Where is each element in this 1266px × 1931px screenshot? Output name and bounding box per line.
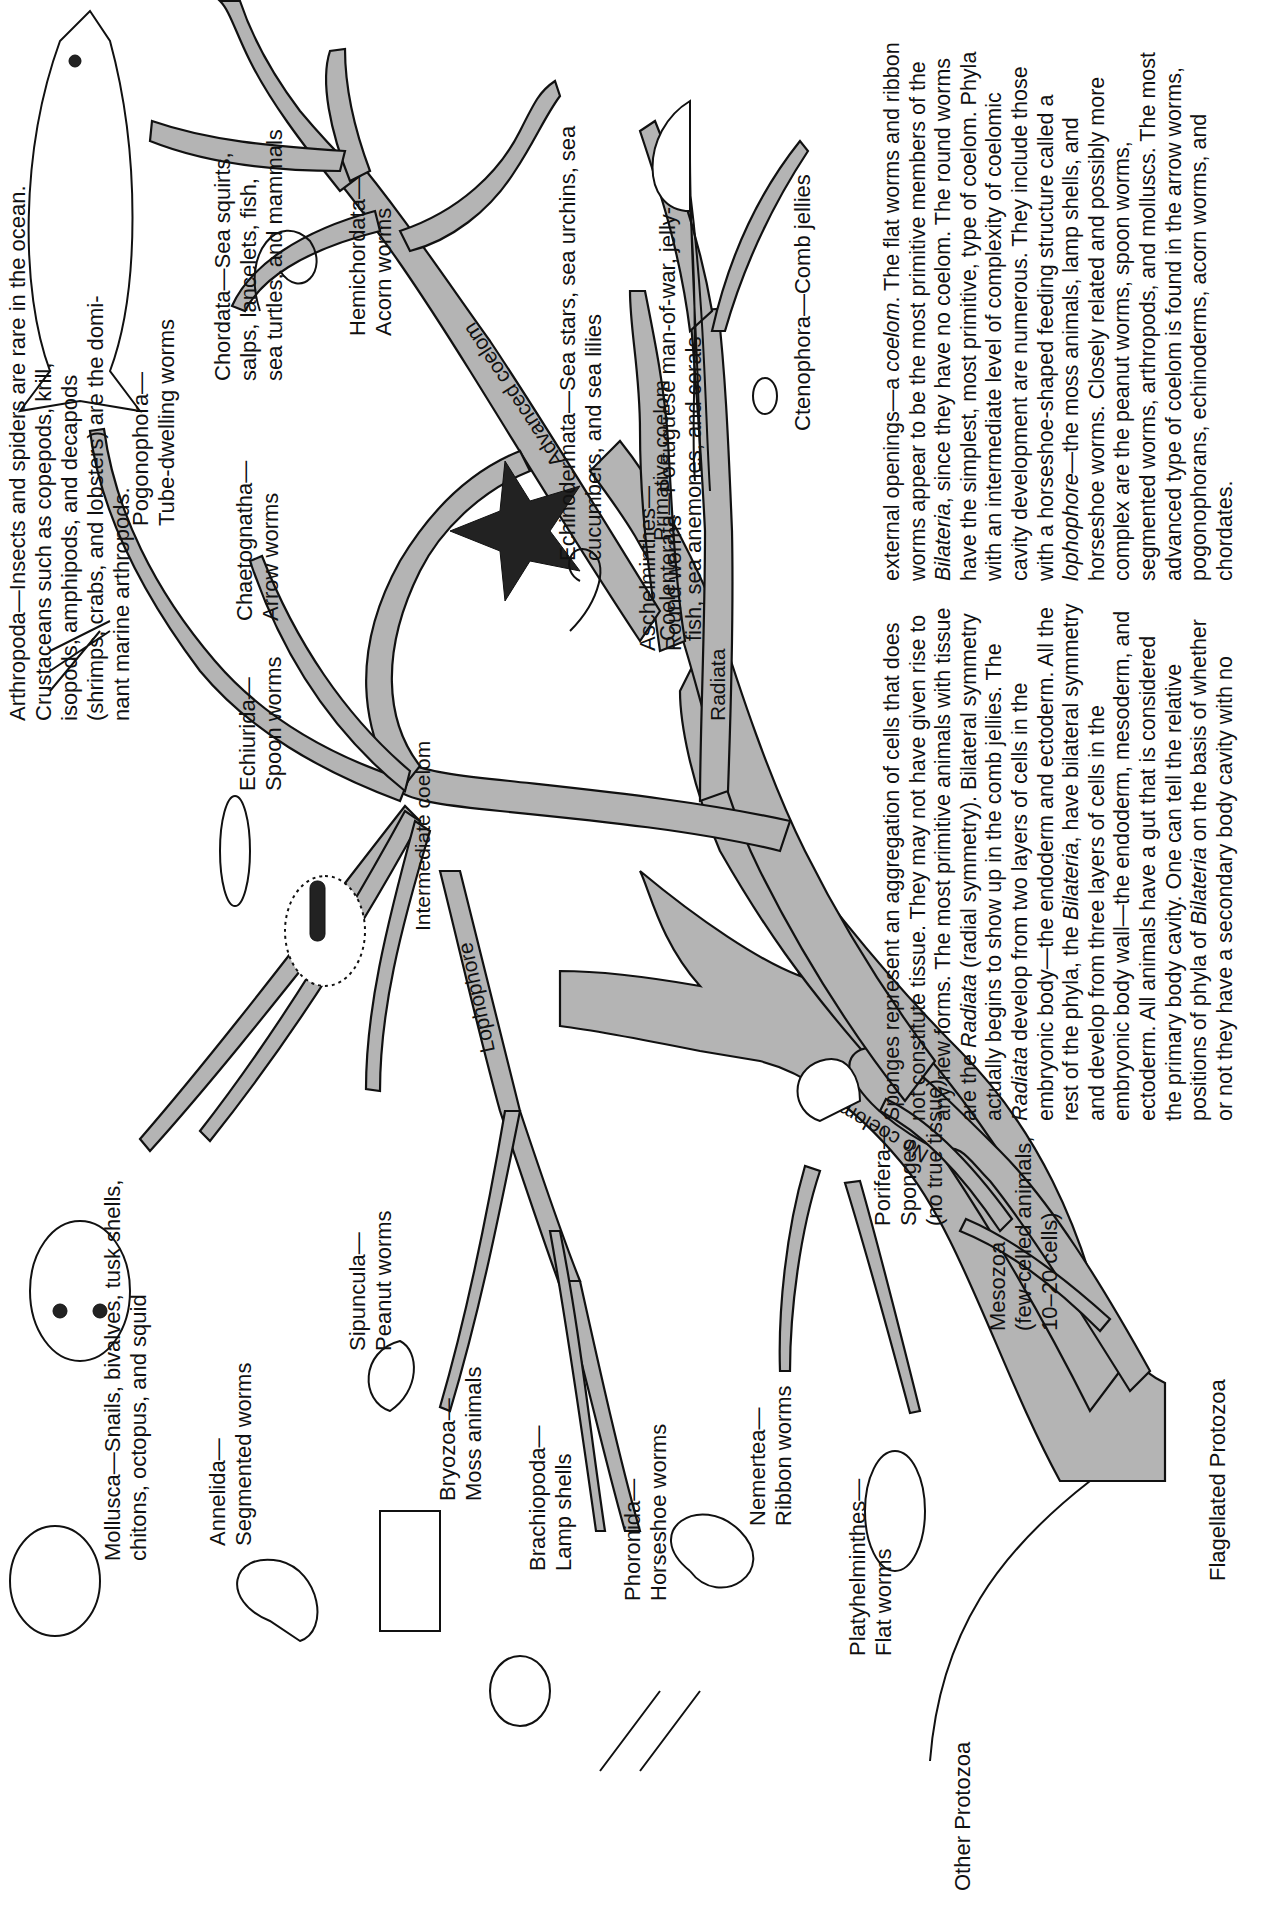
chaetognatha-line-2: Arrow worms — [258, 461, 284, 621]
arthropoda-line-3: isopods, amphipods, and decapods — [57, 185, 83, 721]
label-arthropoda: Arthropoda—Insects and spiders are rare … — [5, 185, 135, 721]
branch-label-advanced-coelom: Advanced coelom — [458, 319, 568, 472]
platyhelminthes-line-1: Platyhelminthes— — [845, 1479, 871, 1656]
echinodermata-line-2: cucumbers, and sea lilies — [581, 126, 607, 561]
chordata-line-2: salps, lancelets, fish, — [236, 129, 262, 381]
label-bryozoa: Bryozoa— Moss animals — [435, 1367, 487, 1501]
lophophore-branch — [440, 871, 580, 1286]
other-protozoa-stem — [930, 1481, 1090, 1761]
rotated-figure: No coelom Radiata Primative coelom Advan… — [0, 0, 1266, 1931]
label-echinodermata: Echinodermata—Sea stars, sea urchins, se… — [555, 126, 607, 561]
phoronida-line-2: Horseshoe worms — [646, 1424, 672, 1601]
label-annelida: Annelida— Segmented worms — [205, 1363, 257, 1546]
caption-column-1: Sponges represent an aggregation of cell… — [880, 601, 1238, 1121]
arthropoda-line-2: Crustaceans such as copepods, krill, — [31, 185, 57, 721]
phoronida-illustration — [600, 1691, 700, 1771]
arthropoda-line-1: Arthropoda—Insects and spiders are rare … — [5, 185, 31, 721]
segmented-worm-illustration — [237, 1560, 317, 1641]
label-phoronida: Phoronida— Horseshoe worms — [620, 1424, 672, 1601]
chaetognatha-line-1: Chaetognatha— — [232, 461, 258, 621]
mollusca-line-2: chitons, octopus, and squid — [126, 1180, 152, 1561]
label-ctenophora: Ctenophora—Comb jellies — [790, 174, 816, 431]
annelida-line-1: Annelida— — [205, 1363, 231, 1546]
platyhelminthes-line-2: Flat worms — [871, 1479, 897, 1656]
ctenophora-line-1: Ctenophora—Comb jellies — [790, 174, 816, 431]
other-protozoa-text: Other Protozoa — [950, 1742, 976, 1891]
annelida-line-2: Segmented worms — [231, 1363, 257, 1546]
arrow-worm-illustration — [220, 796, 250, 906]
branch-label-radiata: Radiata — [706, 648, 729, 721]
bryozoa-line-1: Bryozoa— — [435, 1367, 461, 1501]
label-nemertea: Nemertea— Ribbon worms — [745, 1385, 797, 1526]
peanut-worm-illustration — [369, 1341, 414, 1411]
chordata-line-3: sea turtles, and mammals — [262, 129, 288, 381]
arthropoda-line-4: (shrimps, crabs, and lobsters) are the d… — [83, 185, 109, 721]
label-mollusca: Mollusca—Snails, bivalves, tusk shells, … — [100, 1180, 152, 1561]
snail-illustration — [10, 1526, 100, 1636]
branch-label-intermediate-coelom: Intermediate coelom — [411, 741, 434, 931]
sipuncula-line-2: Peanut worms — [371, 1210, 397, 1351]
caption-column-2: external openings—a coelom. The flat wor… — [880, 41, 1238, 581]
echinodermata-line-1: Echinodermata—Sea stars, sea urchins, se… — [555, 126, 581, 561]
coelenterata-line-1: Coelenterata—Portuguese man-of-war, jell… — [655, 207, 681, 641]
ribbon-worm-illustration — [671, 1514, 753, 1587]
mesozoa-line-3: 10–20 cells) — [1037, 1137, 1063, 1331]
pogonophora-line-1: Pogonophora— — [128, 319, 154, 526]
sipuncula-line-1: Sipuncula— — [345, 1210, 371, 1351]
label-coelenterata: Coelenterata—Portuguese man-of-war, jell… — [655, 207, 707, 641]
label-chordata: Chordata—Sea squirts, salps, lancelets, … — [210, 129, 288, 381]
label-echiurida: Echiurida— Spoon worms — [235, 656, 287, 791]
chordata-line-1: Chordata—Sea squirts, — [210, 129, 236, 381]
hemichordata-line-2: Acorn worms — [371, 177, 397, 336]
mesozoa-line-1: Mesozoa — [985, 1137, 1011, 1331]
label-platyhelminthes: Platyhelminthes— Flat worms — [845, 1479, 897, 1656]
comb-jelly-illustration — [753, 378, 777, 414]
label-hemichordata: Hemichordata— Acorn worms — [345, 177, 397, 336]
pogonophora-line-2: Tube-dwelling worms — [154, 319, 180, 526]
coelenterata-line-2: fish, sea anemones, and corals — [681, 207, 707, 641]
nemertea-line-1: Nemertea— — [745, 1385, 771, 1526]
brachiopoda-line-1: Brachiopoda— — [525, 1425, 551, 1571]
label-sipuncula: Sipuncula— Peanut worms — [345, 1210, 397, 1351]
bryozoa-line-2: Moss animals — [461, 1367, 487, 1501]
spoon-worm-illustration — [285, 876, 365, 986]
label-brachiopoda: Brachiopoda— Lamp shells — [525, 1425, 577, 1571]
echiurida-line-2: Spoon worms — [261, 656, 287, 791]
label-flagellated-protozoa: Flagellated Protozoa — [1205, 1379, 1231, 1581]
flagellated-protozoa-text: Flagellated Protozoa — [1205, 1379, 1231, 1581]
nemertea-branch — [780, 1166, 820, 1371]
label-other-protozoa: Other Protozoa — [950, 1742, 976, 1891]
mesozoa-line-2: (few-celled animals, — [1011, 1137, 1037, 1331]
phoronida-line-1: Phoronida— — [620, 1424, 646, 1601]
echinodermata-branch — [400, 81, 560, 251]
label-pogonophora: Pogonophora— Tube-dwelling worms — [128, 319, 180, 526]
hemichordata-line-1: Hemichordata— — [345, 177, 371, 336]
label-chaetognatha: Chaetognatha— Arrow worms — [232, 461, 284, 621]
mollusca-line-1: Mollusca—Snails, bivalves, tusk shells, — [100, 1180, 126, 1561]
label-mesozoa: Mesozoa (few-celled animals, 10–20 cells… — [985, 1137, 1063, 1331]
nemertea-line-2: Ribbon worms — [771, 1385, 797, 1526]
echiurida-line-1: Echiurida— — [235, 656, 261, 791]
brachiopoda-line-2: Lamp shells — [551, 1425, 577, 1571]
